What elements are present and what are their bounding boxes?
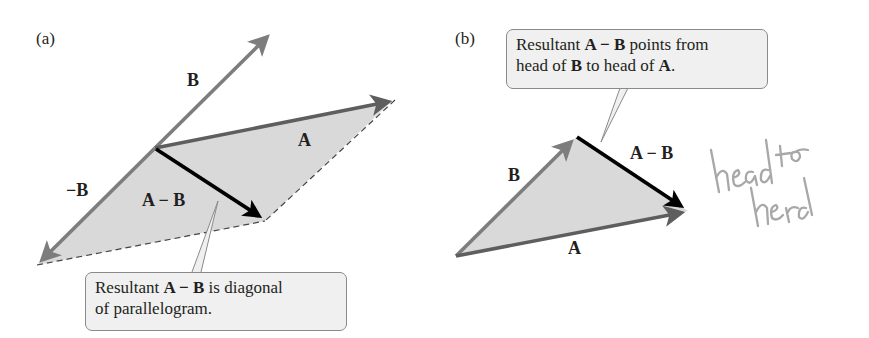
callout-text: Resultant — [516, 35, 584, 54]
handwritten-note — [711, 140, 812, 226]
callout-text: head of — [516, 56, 571, 75]
panel-a-label: (a) — [36, 29, 55, 49]
callout-parallelogram: Resultant A − B is diagonal of parallelo… — [85, 272, 347, 331]
callout-text: to head of — [582, 56, 658, 75]
vector-b-label-b: B — [508, 165, 520, 186]
callout-bold-vector: A − B — [584, 35, 625, 54]
callout-bold-vector: A — [659, 56, 671, 75]
callout-bold-vector: A − B — [163, 278, 204, 297]
callout-text: points from — [625, 35, 708, 54]
panel-b-diagram — [456, 88, 688, 256]
callout-bold-vector: B — [571, 56, 582, 75]
panel-b-label: (b) — [455, 29, 475, 49]
callout-text: of parallelogram. — [95, 299, 212, 318]
panel-a-diagram — [37, 38, 395, 272]
vector-a-minus-b-label-b: A − B — [630, 143, 673, 164]
vector-b-label: B — [187, 70, 199, 91]
callout-head-to-head: Resultant A − B points from head of B to… — [506, 29, 768, 89]
parallelogram-fill — [37, 101, 392, 265]
callout-text: is diagonal — [204, 278, 282, 297]
callout-text: . — [671, 56, 675, 75]
callout-b-pointer — [601, 88, 628, 142]
vector-a-minus-b-label: A − B — [142, 190, 185, 211]
vector-a-label-b: A — [568, 238, 581, 259]
vector-a-label: A — [298, 130, 311, 151]
callout-text: Resultant — [95, 278, 163, 297]
vector-neg-b-label: −B — [66, 180, 88, 201]
